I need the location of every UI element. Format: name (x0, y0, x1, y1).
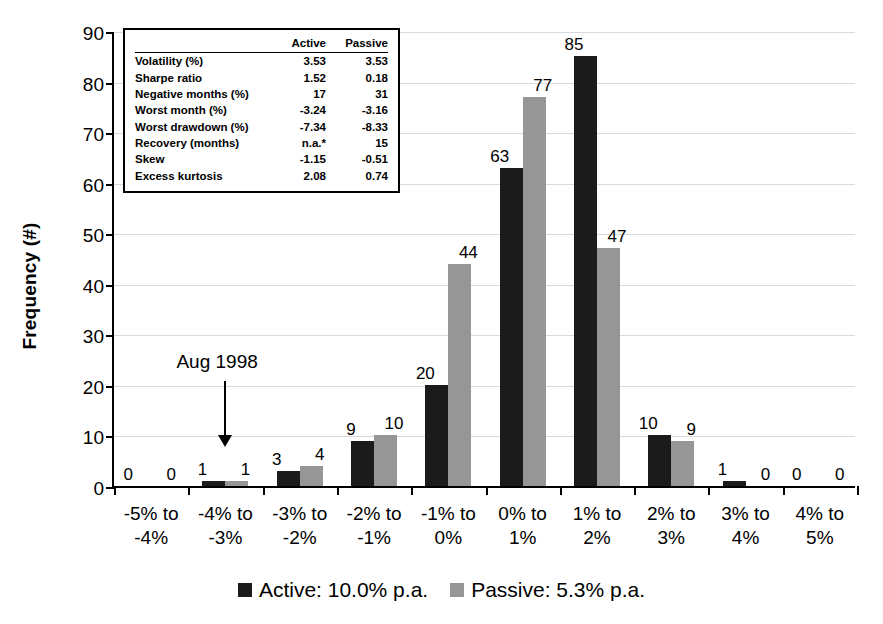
x-axis-category-label: -4% to-3% (182, 502, 268, 550)
y-axis-tick-mark (106, 234, 114, 236)
y-axis-tick-label: 50 (70, 226, 104, 245)
stats-value-passive: -0.51 (326, 151, 388, 167)
table-row: Skew-1.15-0.51 (135, 151, 388, 167)
legend-label: Passive: 5.3% p.a. (471, 578, 645, 602)
bar-passive[interactable] (300, 466, 323, 486)
chart-canvas: Frequency (#) 010203040506070809000-5% t… (0, 0, 883, 624)
bar-value-label-active: 20 (405, 365, 445, 382)
x-axis-category-label: -3% to-2% (257, 502, 343, 550)
stats-header-passive: Passive (326, 36, 388, 53)
table-row: Worst month (%)-3.24-3.16 (135, 102, 388, 118)
stats-value-active: -7.34 (264, 119, 326, 135)
x-axis-tick-mark (783, 486, 785, 495)
x-axis-category-label: 3% to4% (703, 502, 789, 550)
y-axis-tick-label: 80 (70, 75, 104, 94)
bar-active[interactable] (723, 481, 746, 486)
bar-value-label-active: 9 (331, 421, 371, 438)
y-axis-tick-label: 30 (70, 327, 104, 346)
bar-active[interactable] (202, 481, 225, 486)
stats-metric-label: Recovery (months) (135, 135, 264, 151)
bar-value-label-passive: 77 (523, 77, 563, 94)
table-row: Sharpe ratio1.520.18 (135, 69, 388, 85)
bar-value-label-active: 1 (703, 461, 743, 478)
y-axis-tick-mark (106, 436, 114, 438)
bar-active[interactable] (425, 385, 448, 486)
bar-group (783, 31, 857, 486)
table-row: Negative months (%)1731 (135, 86, 388, 102)
y-axis-tick-mark (106, 335, 114, 337)
bar-group (560, 31, 634, 486)
bar-value-label-passive: 10 (374, 415, 414, 432)
table-row: Volatility (%)3.533.53 (135, 53, 388, 70)
bar-passive[interactable] (225, 481, 248, 486)
bar-passive[interactable] (523, 97, 546, 486)
legend-item[interactable]: Active: 10.0% p.a. (238, 578, 428, 602)
stats-table-panel: Active Passive Volatility (%)3.533.53Sha… (123, 28, 400, 193)
bar-active[interactable] (574, 56, 597, 486)
stats-value-passive: 31 (326, 86, 388, 102)
stats-value-active: -3.24 (264, 102, 326, 118)
stats-value-passive: 0.18 (326, 69, 388, 85)
x-axis-category-label: 2% to3% (628, 502, 714, 550)
y-axis-tick-mark (106, 83, 114, 85)
bar-passive[interactable] (671, 441, 694, 487)
x-axis-tick-mark (560, 486, 562, 495)
bar-active[interactable] (500, 168, 523, 487)
chart-legend: Active: 10.0% p.a.Passive: 5.3% p.a. (0, 578, 883, 602)
stats-value-active: 17 (264, 86, 326, 102)
bar-passive[interactable] (374, 435, 397, 486)
bar-value-label-passive: 4 (300, 446, 340, 463)
y-axis-tick-label: 40 (70, 277, 104, 296)
stats-value-passive: 3.53 (326, 53, 388, 70)
bar-value-label-passive: 47 (597, 228, 637, 245)
annotation-arrow-line (224, 381, 226, 437)
bar-passive[interactable] (597, 248, 620, 486)
y-axis-tick-label: 70 (70, 125, 104, 144)
stats-value-passive: -3.16 (326, 102, 388, 118)
x-axis-category-label: 4% to5% (777, 502, 863, 550)
stats-metric-label: Excess kurtosis (135, 168, 264, 184)
legend-swatch-icon (238, 583, 252, 597)
y-axis-tick-mark (106, 285, 114, 287)
bar-value-label-passive: 44 (448, 244, 488, 261)
x-axis-tick-mark (486, 486, 488, 495)
stats-metric-label: Sharpe ratio (135, 69, 264, 85)
annotation-arrow-head-icon (218, 435, 232, 447)
bar-value-label-active: 0 (777, 466, 817, 483)
y-axis-tick-mark (106, 184, 114, 186)
bar-value-label-active: 85 (554, 36, 594, 53)
stats-value-passive: 0.74 (326, 168, 388, 184)
stats-value-active: 2.08 (264, 168, 326, 184)
bar-active[interactable] (277, 471, 300, 486)
x-axis-category-label: 0% to1% (480, 502, 566, 550)
bar-value-label-passive: 9 (671, 421, 711, 438)
stats-metric-label: Negative months (%) (135, 86, 264, 102)
annotation-label: Aug 1998 (176, 351, 257, 373)
bar-group (486, 31, 560, 486)
y-axis-title: Frequency (#) (19, 186, 41, 386)
table-row: Excess kurtosis2.080.74 (135, 168, 388, 184)
bar-value-label-passive: 0 (820, 466, 860, 483)
table-row: Worst drawdown (%)-7.34-8.33 (135, 119, 388, 135)
bar-passive[interactable] (448, 264, 471, 486)
x-axis-tick-mark (857, 486, 859, 495)
x-axis-tick-mark (114, 486, 116, 495)
x-axis-tick-mark (634, 486, 636, 495)
bar-active[interactable] (648, 435, 671, 486)
x-axis-category-label: -5% to-4% (108, 502, 194, 550)
x-axis-category-label: -1% to0% (405, 502, 491, 550)
y-axis-tick-mark (106, 32, 114, 34)
stats-metric-label: Worst drawdown (%) (135, 119, 264, 135)
stats-metric-label: Worst month (%) (135, 102, 264, 118)
x-axis-tick-mark (188, 486, 190, 495)
stats-value-active: 3.53 (264, 53, 326, 70)
stats-value-active: -1.15 (264, 151, 326, 167)
y-axis-tick-label: 0 (70, 479, 104, 498)
y-axis-tick-label: 10 (70, 428, 104, 447)
x-axis-category-label: 1% to2% (554, 502, 640, 550)
bar-value-label-active: 1 (182, 461, 222, 478)
x-axis-category-label: -2% to-1% (331, 502, 417, 550)
legend-item[interactable]: Passive: 5.3% p.a. (450, 578, 645, 602)
bar-group (708, 31, 782, 486)
bar-active[interactable] (351, 441, 374, 487)
